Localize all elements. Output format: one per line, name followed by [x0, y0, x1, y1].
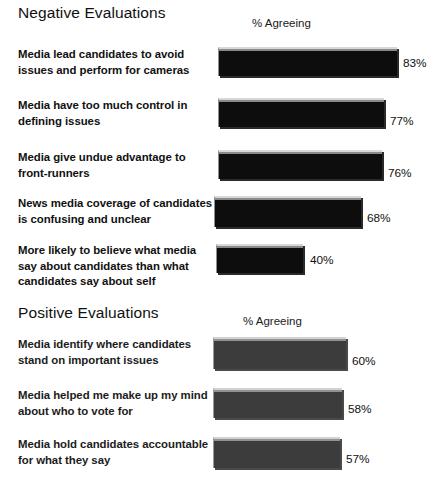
bar-row: More likely to believe what media say ab… [0, 243, 442, 291]
bar-fill [216, 244, 303, 273]
bar-value-label: 76% [388, 166, 412, 180]
bar-row-label: Media identify where candidates stand on… [18, 337, 214, 368]
positive-axis-note: % Agreeing [243, 315, 302, 327]
bar-fill [218, 98, 384, 127]
media-evaluations-chart: Negative Evaluations % Agreeing Media le… [0, 0, 442, 478]
bar-row-label: News media coverage of candidates is con… [18, 196, 214, 227]
bar-row-label: Media helped me make up my mind about wh… [18, 388, 214, 419]
bar-row-label: Media give undue advantage to front-runn… [18, 150, 214, 181]
bar-track [218, 150, 382, 179]
bar-track [218, 47, 397, 76]
bar-value-label: 77% [390, 114, 414, 128]
bar-fill [218, 150, 382, 179]
bar-value-label: 83% [403, 56, 427, 70]
bar-track [214, 196, 361, 227]
bar-row-label: More likely to believe what media say ab… [18, 243, 214, 290]
bar-value-label: 57% [346, 452, 370, 466]
bar-row: Media hold candidates accountable for wh… [0, 437, 442, 473]
bar-track [218, 98, 384, 127]
bar-row: Media identify where candidates stand on… [0, 337, 442, 373]
bar-row: Media helped me make up my mind about wh… [0, 388, 442, 424]
bar-track [213, 437, 340, 468]
bar-track [216, 244, 303, 273]
bar-fill [213, 437, 340, 468]
bar-row-label: Media lead candidates to avoid issues an… [18, 47, 214, 78]
bar-row: Media have too much control in defining … [0, 98, 442, 132]
bar-fill [213, 388, 342, 418]
bar-value-label: 60% [352, 354, 376, 368]
positive-section-title: Positive Evaluations [18, 304, 159, 322]
bar-track [213, 388, 342, 418]
bar-value-label: 58% [348, 402, 372, 416]
bar-value-label: 68% [367, 211, 391, 225]
bar-row: Media lead candidates to avoid issues an… [0, 47, 442, 81]
bar-track [213, 337, 346, 369]
bar-row: News media coverage of candidates is con… [0, 196, 442, 232]
negative-axis-note: % Agreeing [252, 17, 311, 29]
bar-fill [213, 337, 346, 369]
bar-fill [218, 47, 397, 76]
bar-row-label: Media have too much control in defining … [18, 98, 214, 129]
bar-row-label: Media hold candidates accountable for wh… [18, 437, 214, 468]
bar-value-label: 40% [310, 253, 334, 267]
bar-row: Media give undue advantage to front-runn… [0, 150, 442, 184]
bar-fill [214, 196, 361, 227]
negative-section-title: Negative Evaluations [18, 4, 166, 22]
